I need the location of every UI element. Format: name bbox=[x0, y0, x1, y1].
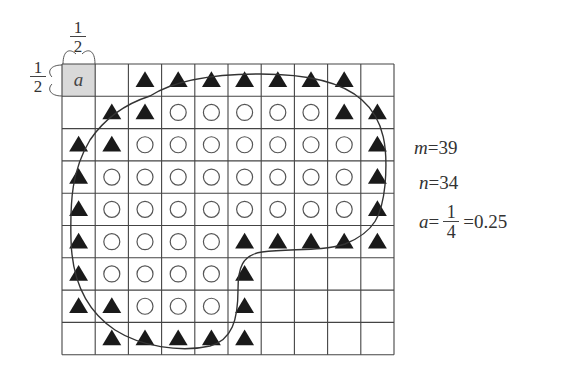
triangle-icon bbox=[268, 233, 287, 249]
triangle-icon bbox=[102, 297, 121, 313]
a-equals: = bbox=[429, 211, 440, 233]
a-result: a= 1 4 =0.25 bbox=[419, 204, 507, 240]
triangle-icon bbox=[69, 297, 88, 313]
circle-icon bbox=[170, 137, 186, 153]
triangle-icon bbox=[335, 103, 354, 119]
triangle-icon bbox=[69, 233, 88, 249]
triangle-icon bbox=[368, 200, 387, 216]
circle-icon bbox=[104, 234, 120, 250]
circle-icon bbox=[270, 201, 286, 217]
a-numerator: 1 bbox=[447, 204, 456, 220]
top-fraction-numerator: 1 bbox=[74, 20, 83, 35]
circle-icon bbox=[170, 234, 186, 250]
a-symbol: a bbox=[419, 211, 429, 233]
n-value: =34 bbox=[429, 172, 459, 193]
circle-icon bbox=[170, 104, 186, 120]
circle-icon bbox=[170, 266, 186, 282]
circle-icon bbox=[137, 137, 153, 153]
circle-icon bbox=[137, 298, 153, 314]
left-bracket-arc bbox=[50, 65, 62, 96]
m-result: m=39 bbox=[414, 137, 457, 159]
left-fraction-denominator: 2 bbox=[34, 79, 43, 94]
triangle-icon bbox=[235, 233, 254, 249]
circle-icon bbox=[104, 266, 120, 282]
triangle-icon bbox=[368, 233, 387, 249]
circle-icon bbox=[237, 169, 253, 185]
circle-icon bbox=[336, 137, 352, 153]
top-side-length-fraction: 1 2 bbox=[70, 20, 86, 54]
circle-icon bbox=[336, 201, 352, 217]
n-result: n=34 bbox=[419, 172, 458, 194]
triangle-icon bbox=[335, 71, 354, 87]
circle-icon bbox=[104, 201, 120, 217]
circle-icon bbox=[104, 169, 120, 185]
circle-icon bbox=[170, 298, 186, 314]
circle-icon bbox=[303, 169, 319, 185]
circle-icon bbox=[203, 201, 219, 217]
circle-icon bbox=[203, 169, 219, 185]
grid-diagram: a bbox=[0, 0, 574, 382]
triangle-icon bbox=[169, 330, 188, 346]
top-fraction-denominator: 2 bbox=[74, 39, 83, 54]
circle-icon bbox=[203, 137, 219, 153]
circle-icon bbox=[270, 169, 286, 185]
circle-icon bbox=[203, 298, 219, 314]
circle-icon bbox=[170, 169, 186, 185]
circle-icon bbox=[270, 104, 286, 120]
m-value: =39 bbox=[428, 137, 458, 158]
a-denominator: 4 bbox=[447, 224, 456, 240]
circle-icon bbox=[303, 201, 319, 217]
circle-icon bbox=[203, 266, 219, 282]
triangle-icon bbox=[102, 136, 121, 152]
circle-icon bbox=[203, 234, 219, 250]
circle-icon bbox=[203, 104, 219, 120]
left-side-length-fraction: 1 2 bbox=[30, 60, 46, 94]
triangle-icon bbox=[69, 168, 88, 184]
triangle-icon bbox=[368, 168, 387, 184]
left-fraction-numerator: 1 bbox=[34, 60, 43, 75]
triangle-icon bbox=[235, 330, 254, 346]
m-symbol: m bbox=[414, 137, 428, 158]
circle-icon bbox=[170, 201, 186, 217]
circle-icon bbox=[137, 266, 153, 282]
circle-icon bbox=[237, 201, 253, 217]
n-symbol: n bbox=[419, 172, 429, 193]
circle-icon bbox=[237, 104, 253, 120]
circle-icon bbox=[303, 137, 319, 153]
circle-icon bbox=[137, 201, 153, 217]
triangle-icon bbox=[136, 71, 155, 87]
circle-icon bbox=[137, 169, 153, 185]
unit-cell-label: a bbox=[74, 69, 84, 90]
a-decimal: =0.25 bbox=[463, 211, 507, 233]
triangle-icon bbox=[202, 71, 221, 87]
circle-icon bbox=[270, 137, 286, 153]
a-fraction: 1 4 bbox=[443, 204, 459, 240]
triangle-icon bbox=[136, 103, 155, 119]
triangle-icon bbox=[302, 233, 321, 249]
triangle-icon bbox=[169, 71, 188, 87]
circle-icon bbox=[137, 234, 153, 250]
triangle-icon bbox=[368, 103, 387, 119]
triangle-icon bbox=[69, 265, 88, 281]
circle-icon bbox=[336, 169, 352, 185]
circle-icon bbox=[237, 137, 253, 153]
circle-icon bbox=[303, 104, 319, 120]
